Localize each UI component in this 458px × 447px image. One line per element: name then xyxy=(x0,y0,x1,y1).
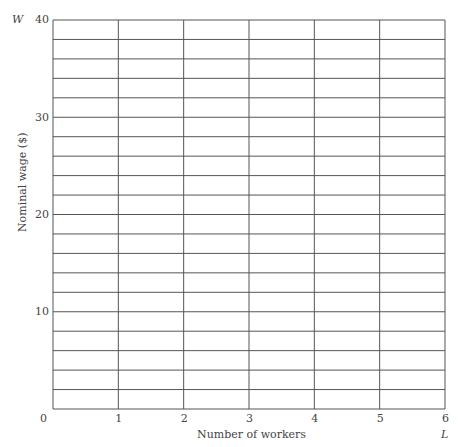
x-tick-2: 2 xyxy=(181,412,188,425)
x-tick-6: 6 xyxy=(442,412,449,425)
x-axis-symbol: L xyxy=(441,428,448,441)
x-tick-0: 0 xyxy=(40,412,47,425)
x-tick-3: 3 xyxy=(246,412,253,425)
x-axis-label: Number of workers xyxy=(197,428,306,441)
y-tick-10: 10 xyxy=(35,305,49,318)
y-axis-label: Nominal wage ($) xyxy=(16,133,29,232)
chart-grid xyxy=(0,0,458,447)
x-tick-5: 5 xyxy=(377,412,384,425)
x-tick-1: 1 xyxy=(115,412,122,425)
y-tick-40: 40 xyxy=(35,13,49,26)
x-tick-4: 4 xyxy=(311,412,318,425)
y-tick-30: 30 xyxy=(35,111,49,124)
y-tick-20: 20 xyxy=(35,208,49,221)
y-axis-symbol: W xyxy=(12,13,23,26)
